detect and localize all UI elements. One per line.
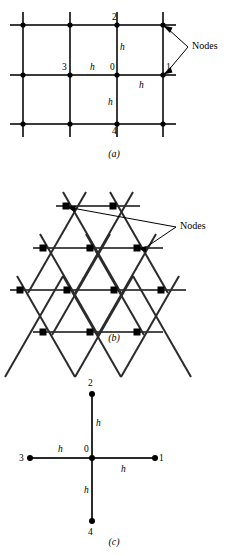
panel-a-rectangular-grid: 2 1 3 0 4 h h h h Nodes (a)	[0, 0, 228, 175]
grid-lines-horizontal	[10, 25, 176, 124]
spacing-label-h-north-panel-a: h	[120, 42, 125, 52]
spacing-label-h-west-panel-c: h	[58, 444, 63, 454]
node-label-1-panel-a: 1	[166, 62, 171, 72]
spacing-label-h-south-panel-a: h	[108, 97, 113, 107]
triangular-grid-diagonal-lines-right	[17, 192, 191, 377]
spacing-label-h-west-panel-a: h	[90, 62, 95, 72]
node-label-2-panel-a: 2	[112, 12, 117, 22]
node-label-4-panel-a: 4	[112, 126, 117, 136]
node-label-2-panel-c: 2	[88, 378, 93, 388]
node-label-3-panel-c: 3	[19, 453, 24, 463]
panel-caption-a: (a)	[0, 148, 228, 160]
panel-b-triangular-grid: Nodes (b)	[0, 175, 228, 375]
nodes-leader-lines-panel-b	[72, 208, 176, 250]
spacing-label-h-east-panel-c: h	[121, 464, 126, 474]
node-label-0-panel-a: 0	[110, 62, 115, 72]
node-label-1-panel-c: 1	[159, 453, 164, 463]
nodes-annotation-label-panel-b: Nodes	[180, 220, 206, 231]
triangular-grid-drawing	[0, 175, 228, 375]
panel-c-five-point-stencil: 2 1 3 0 4 h h h h (c)	[0, 375, 228, 556]
triangular-grid-horizontal-lines	[10, 206, 186, 332]
panel-caption-c: (c)	[0, 536, 228, 548]
spacing-label-h-east-panel-a: h	[139, 80, 144, 90]
stencil-drawing	[0, 375, 228, 556]
nodes-annotation-label-panel-a: Nodes	[192, 40, 218, 51]
spacing-label-h-north-panel-c: h	[96, 418, 101, 428]
triangular-grid-diagonal-lines-left	[5, 192, 179, 377]
panel-caption-b: (b)	[0, 332, 228, 344]
spacing-label-h-south-panel-c: h	[84, 485, 89, 495]
figure-grid-types: 2 1 3 0 4 h h h h Nodes (a)	[0, 0, 228, 556]
node-label-3-panel-a: 3	[62, 62, 67, 72]
node-label-0-panel-c: 0	[84, 444, 89, 454]
